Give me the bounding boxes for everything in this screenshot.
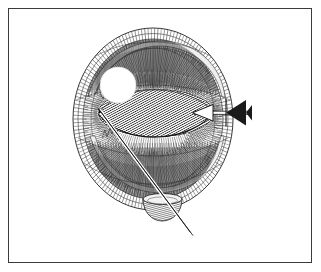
specular-highlight [100, 67, 136, 103]
anatomical-illustration: radial-spokes [0, 0, 321, 272]
illustration-page: radial-spokes [0, 0, 321, 272]
